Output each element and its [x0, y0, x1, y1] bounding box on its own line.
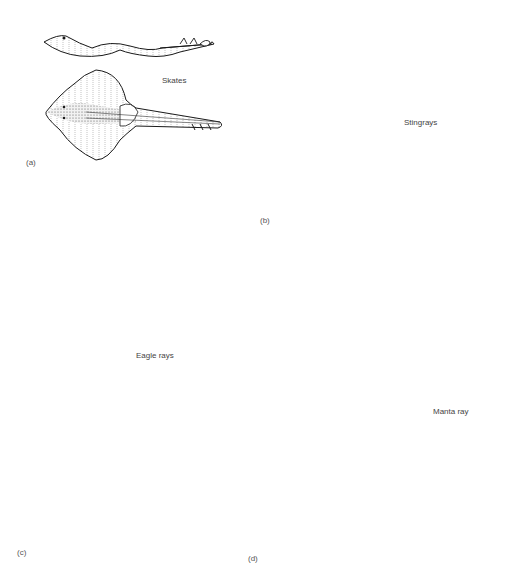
- panel-label-d: (d): [248, 554, 258, 563]
- panel-label-a: (a): [26, 158, 36, 167]
- panel-label-c: (c): [17, 548, 26, 557]
- skate-top-view: [46, 70, 222, 160]
- label-eagle-rays: Eagle rays: [136, 351, 174, 360]
- label-stingrays: Stingrays: [404, 118, 437, 127]
- figure-canvas: [0, 0, 507, 580]
- label-manta-ray: Manta ray: [433, 407, 469, 416]
- skate-side-view: [44, 36, 214, 57]
- label-skates: Skates: [162, 76, 186, 85]
- panel-label-b: (b): [260, 216, 270, 225]
